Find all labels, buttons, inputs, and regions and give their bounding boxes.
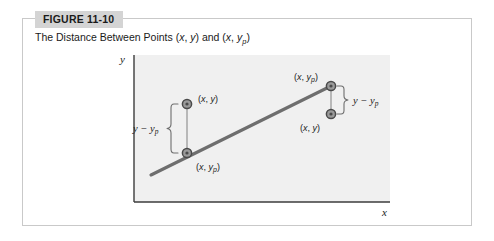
figure-title-lead: The Distance Between Points ( — [35, 31, 179, 43]
figure-title-mid: ) and ( — [196, 31, 226, 43]
figure-number-tag: FIGURE 11-10 — [35, 11, 123, 28]
figure-container: FIGURE 11-10 The Distance Between Points… — [0, 0, 494, 241]
figure-title: The Distance Between Points (x, y) and (… — [35, 30, 250, 49]
figure-title-close: ) — [246, 31, 250, 43]
figure-frame — [22, 18, 472, 226]
